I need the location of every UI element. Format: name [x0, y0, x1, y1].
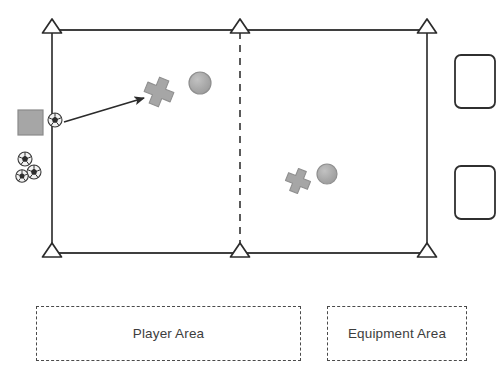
defender-markers — [189, 72, 337, 184]
attacker-lower-cross-icon — [283, 166, 314, 197]
defender-upper-circle-icon — [189, 72, 211, 94]
cone-top-right-icon — [418, 19, 437, 33]
cone-top-left-icon — [43, 19, 62, 33]
goal-upper-icon — [455, 55, 495, 108]
equipment-area-label: Equipment Area — [348, 326, 446, 341]
equipment-area-box: Equipment Area — [327, 306, 467, 361]
cone-bottom-left-icon — [43, 243, 62, 257]
player-area-label: Player Area — [133, 326, 204, 341]
attacker-upper-cross-icon — [141, 74, 177, 110]
defender-lower-circle-icon — [317, 164, 337, 184]
drill-diagram-canvas: Player Area Equipment Area — [0, 0, 497, 385]
spare-soccer-ball-2-icon — [27, 165, 41, 179]
goal-markers — [455, 55, 495, 219]
cone-bottom-right-icon — [418, 243, 437, 257]
attacker-markers — [141, 74, 314, 197]
server-square-marker — [18, 110, 43, 135]
goal-lower-icon — [455, 166, 495, 219]
cone-top-middle-icon — [231, 19, 250, 33]
player-area-box: Player Area — [36, 306, 301, 361]
cone-bottom-middle-icon — [231, 243, 250, 257]
pass-direction-arrow — [64, 98, 144, 122]
spare-soccer-ball-1-icon — [18, 152, 32, 166]
spare-soccer-ball-3-icon — [16, 170, 28, 182]
active-soccer-ball-icon — [48, 113, 62, 127]
